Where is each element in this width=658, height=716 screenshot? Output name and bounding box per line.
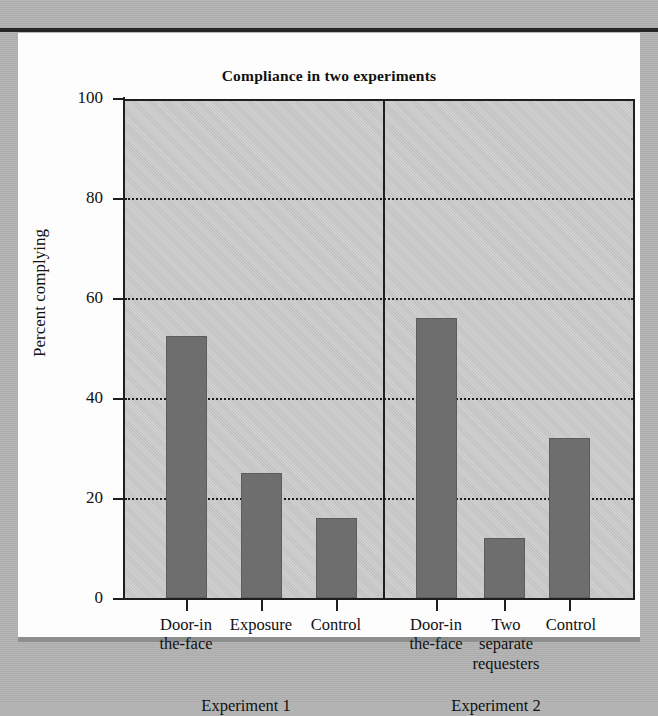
y-tick-label-40: 40 bbox=[43, 388, 103, 408]
bar-exp2-control bbox=[549, 438, 590, 598]
gridline-80 bbox=[125, 198, 633, 200]
x-axis-line bbox=[123, 598, 635, 600]
group-label-experiment-1: Experiment 1 bbox=[146, 696, 346, 716]
group-label-experiment-2: Experiment 2 bbox=[396, 696, 596, 716]
category-label-line2: the-face bbox=[131, 634, 241, 653]
bar-exp2-door-in-the-face bbox=[416, 318, 457, 598]
category-label-exp2-control: Control bbox=[524, 615, 618, 634]
experiment-divider-line bbox=[383, 99, 385, 598]
bar-exp1-control bbox=[316, 518, 357, 598]
figure-panel: Compliance in two experiments 100 80 60 … bbox=[18, 33, 640, 637]
x-tick-2 bbox=[261, 600, 263, 611]
category-label-line3: requesters bbox=[457, 654, 555, 673]
y-tick-label-100: 100 bbox=[43, 88, 103, 108]
y-tick-0 bbox=[113, 598, 125, 600]
y-axis-title: Percent complying bbox=[30, 123, 50, 463]
gridline-60 bbox=[125, 298, 633, 300]
category-label-line2: separate bbox=[457, 634, 555, 653]
bar-exp1-door-in-the-face bbox=[166, 336, 207, 599]
x-tick-3 bbox=[336, 600, 338, 611]
bar-exp1-exposure bbox=[241, 473, 282, 598]
y-tick-40 bbox=[113, 398, 125, 400]
category-label-line1: Control bbox=[288, 615, 384, 634]
x-tick-1 bbox=[186, 600, 188, 611]
y-axis-line bbox=[123, 97, 125, 600]
chart-title: Compliance in two experiments bbox=[18, 67, 640, 85]
x-tick-6 bbox=[569, 600, 571, 611]
y-tick-20 bbox=[113, 498, 125, 500]
y-tick-100 bbox=[113, 98, 125, 100]
y-tick-label-80: 80 bbox=[43, 188, 103, 208]
y-tick-label-0: 0 bbox=[43, 588, 103, 608]
category-label-exp1-control: Control bbox=[288, 615, 384, 634]
y-tick-label-20: 20 bbox=[43, 488, 103, 508]
y-tick-80 bbox=[113, 198, 125, 200]
x-tick-4 bbox=[436, 600, 438, 611]
category-label-line1: Control bbox=[524, 615, 618, 634]
y-tick-label-60: 60 bbox=[43, 288, 103, 308]
x-tick-5 bbox=[504, 600, 506, 611]
y-tick-60 bbox=[113, 298, 125, 300]
bar-exp2-two-separate-requesters bbox=[484, 538, 525, 598]
page-top-rule bbox=[0, 28, 658, 32]
